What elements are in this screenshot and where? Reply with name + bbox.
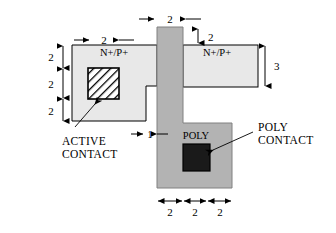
active-contact-label-line1: ACTIVE (62, 135, 106, 147)
poly-contact-square (183, 144, 210, 171)
poly-label: POLY (183, 130, 210, 141)
dim-right-active-height: 3 (274, 60, 280, 72)
poly-contact-label-line2: CONTACT (258, 134, 313, 146)
dim-bottom-seg2: 2 (192, 206, 198, 218)
layout-diagram: N+/P+ N+/P+ POLY 2 2 2 3 2 2 2 1 2 2 (0, 0, 336, 233)
dim-right-gap-above-active: 2 (208, 31, 214, 43)
dim-bottom-seg1: 2 (167, 206, 173, 218)
dim-bottom-seg3: 2 (217, 206, 223, 218)
dim-notch-width: 1 (147, 128, 153, 140)
dim-active-left-inset: 2 (101, 34, 107, 46)
layout-svg: N+/P+ N+/P+ POLY 2 2 2 3 2 2 2 1 2 2 (0, 0, 336, 233)
active-left-label: N+/P+ (100, 47, 128, 58)
dim-top-poly-width: 2 (167, 13, 173, 25)
dim-left-seg2: 2 (48, 78, 54, 90)
poly-contact-label-line1: POLY (258, 121, 288, 133)
active-contact-label-line2: CONTACT (62, 148, 117, 160)
dim-left-seg1: 2 (48, 51, 54, 63)
dim-left-seg3: 2 (48, 105, 54, 117)
active-contact-square (88, 68, 119, 99)
active-right-label: N+/P+ (203, 47, 231, 58)
